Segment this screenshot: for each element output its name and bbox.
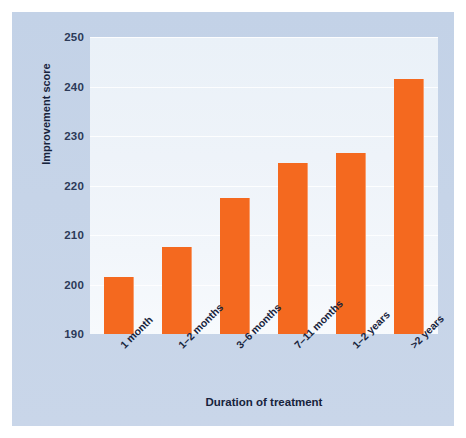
plot-area (90, 37, 438, 334)
y-axis-tick-label: 230 (50, 130, 84, 142)
y-axis-tick-label: 220 (50, 180, 84, 192)
bar-slot (264, 37, 322, 334)
x-label-slot: >2 years (380, 334, 438, 396)
chart-figure: 190200210220230240250 Improvement score … (0, 0, 466, 438)
y-axis-tick-label: 210 (50, 229, 84, 241)
y-axis-tick-label: 190 (50, 328, 84, 340)
y-axis-title: Improvement score (40, 34, 52, 194)
x-axis-title: Duration of treatment (90, 396, 438, 408)
x-axis-tick-labels: 1 month1–2 months3–6 months7–11 months1–… (90, 334, 438, 396)
x-label-slot: 3–6 months (206, 334, 264, 396)
bar-series (90, 37, 438, 334)
bar[interactable] (104, 277, 134, 334)
x-label-slot: 7–11 months (264, 334, 322, 396)
x-label-slot: 1 month (90, 334, 148, 396)
y-axis-tick-label: 200 (50, 279, 84, 291)
chart-panel: 190200210220230240250 Improvement score … (12, 12, 454, 426)
x-label-slot: 1–2 years (322, 334, 380, 396)
bar-slot (206, 37, 264, 334)
bar-slot (90, 37, 148, 334)
y-axis-tick-label: 240 (50, 81, 84, 93)
bar-slot (148, 37, 206, 334)
bar[interactable] (394, 79, 424, 334)
bar[interactable] (220, 198, 250, 334)
x-label-slot: 1–2 months (148, 334, 206, 396)
bar-slot (380, 37, 438, 334)
bar[interactable] (162, 247, 192, 334)
y-axis-tick-label: 250 (50, 31, 84, 43)
bar-slot (322, 37, 380, 334)
